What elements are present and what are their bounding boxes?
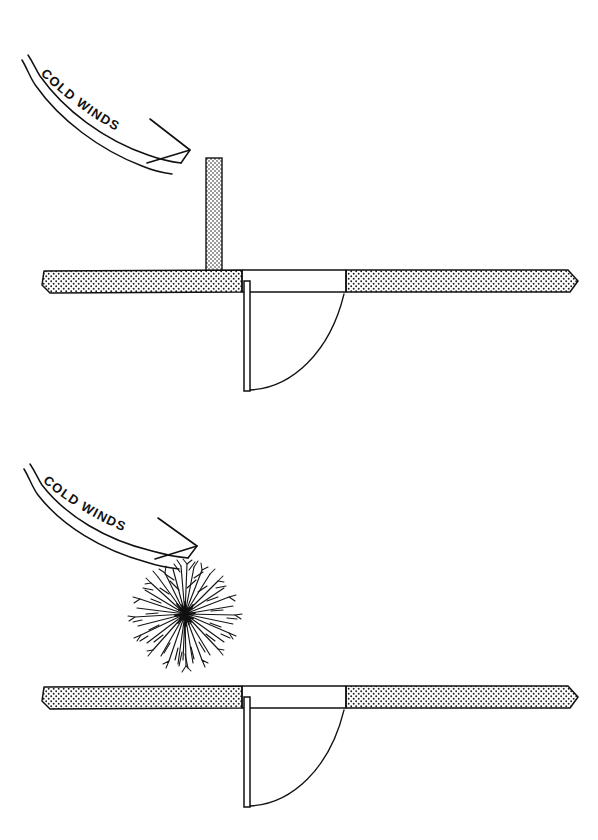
wall-segment-left <box>42 270 242 293</box>
windbreak-wall-stub <box>206 158 222 274</box>
sheet-background <box>0 0 598 840</box>
wall-segment-left-bottom <box>42 686 242 709</box>
wall-segment-right <box>346 270 578 292</box>
drawing-sheet: COLD WINDS <box>0 0 598 840</box>
door-leaf-bottom <box>244 697 250 807</box>
wall-segment-right-bottom <box>346 686 578 708</box>
door-leaf-top <box>244 281 250 391</box>
architectural-plan-drawing: COLD WINDS <box>0 0 598 840</box>
wall-stub-body <box>206 158 222 274</box>
